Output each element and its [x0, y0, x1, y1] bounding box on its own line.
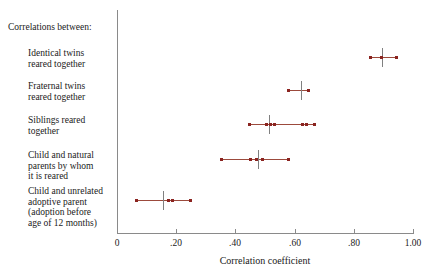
row-label-line: together — [28, 126, 85, 137]
range-line-1 — [287, 90, 309, 91]
row-label-line: reared together — [28, 92, 85, 103]
row-label-line: reared together — [28, 59, 85, 70]
data-point — [171, 199, 174, 202]
data-point — [189, 199, 192, 202]
mean-tick-4 — [163, 191, 164, 210]
data-point — [255, 158, 258, 161]
mean-tick-1 — [301, 81, 302, 100]
row-label-1: Fraternal twinsreared together — [28, 81, 85, 102]
row-label-line: parents by whom — [28, 161, 94, 172]
x-tick-mark-3 — [295, 229, 296, 233]
data-point — [287, 89, 290, 92]
correlation-chart: Correlations between: 0.20.40.60.801.00 … — [0, 0, 431, 275]
row-label-0: Identical twinsreared together — [28, 48, 85, 69]
data-point — [261, 158, 264, 161]
row-label-line: it is reared — [28, 171, 94, 182]
data-point — [269, 123, 272, 126]
x-tick-mark-5 — [413, 229, 414, 233]
data-point — [369, 56, 372, 59]
x-axis-title: Correlation coefficient — [177, 255, 353, 266]
data-point — [305, 123, 308, 126]
data-point — [220, 158, 223, 161]
x-tick-mark-0 — [117, 229, 118, 233]
row-label-line: Child and natural — [28, 150, 94, 161]
data-point — [313, 123, 316, 126]
row-label-line: adoptive parent — [28, 197, 103, 208]
row-label-4: Child and unrelatedadoptive parent(adopt… — [28, 186, 103, 228]
data-point — [301, 123, 304, 126]
x-tick-mark-2 — [235, 229, 236, 233]
row-label-2: Siblings rearedtogether — [28, 115, 85, 136]
row-label-3: Child and naturalparents by whomit is re… — [28, 150, 94, 182]
y-axis-line — [117, 10, 118, 234]
chart-header: Correlations between: — [8, 22, 92, 33]
data-point — [249, 158, 252, 161]
data-point — [265, 123, 268, 126]
x-tick-mark-1 — [176, 229, 177, 233]
row-label-line: Fraternal twins — [28, 81, 85, 92]
data-point — [307, 89, 310, 92]
x-tick-label-1: .20 — [156, 238, 196, 248]
data-point — [167, 199, 170, 202]
row-label-line: Siblings reared — [28, 115, 85, 126]
row-label-line: age of 12 months) — [28, 218, 103, 229]
data-point — [135, 199, 138, 202]
data-point — [248, 123, 251, 126]
data-point — [395, 56, 398, 59]
x-tick-label-0: 0 — [97, 238, 137, 248]
x-tick-label-2: .40 — [215, 238, 255, 248]
row-label-line: Identical twins — [28, 48, 85, 59]
row-label-line: (adoption before — [28, 207, 103, 218]
x-axis-line — [117, 233, 414, 234]
x-tick-label-3: .60 — [275, 238, 315, 248]
row-label-line: Child and unrelated — [28, 186, 103, 197]
x-tick-mark-4 — [354, 229, 355, 233]
x-tick-label-5: 1.00 — [393, 238, 431, 248]
x-tick-label-4: .80 — [334, 238, 374, 248]
data-point — [380, 56, 383, 59]
data-point — [273, 123, 276, 126]
data-point — [287, 158, 290, 161]
